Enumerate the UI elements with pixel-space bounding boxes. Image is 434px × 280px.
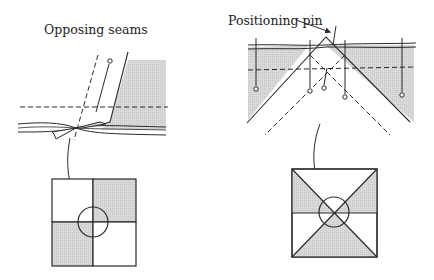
pin-far-right-head bbox=[400, 93, 404, 97]
quadrant-top-right bbox=[93, 179, 136, 222]
pin-inner-right-head bbox=[343, 95, 347, 99]
opposing-seams-label: Opposing seams bbox=[44, 22, 148, 37]
positioning-pin-label: Positioning pin bbox=[228, 13, 323, 28]
pin-head bbox=[108, 59, 112, 63]
pin-inner-left-head bbox=[308, 89, 312, 93]
seam-allowance-flap-left bbox=[52, 128, 76, 139]
quadrant-bottom-left bbox=[52, 222, 93, 266]
left-seam-illustration bbox=[18, 52, 168, 140]
pin-far-left-head bbox=[254, 87, 258, 91]
quadrant-bottom-right bbox=[93, 222, 136, 266]
seam-allowance-flap-right bbox=[76, 122, 106, 128]
pin-shaft bbox=[96, 64, 109, 112]
positioning-pin bbox=[333, 26, 336, 45]
shaded-fabric-strip bbox=[248, 45, 309, 120]
shaded-fabric-piece bbox=[100, 60, 166, 130]
pin-center-head bbox=[322, 86, 326, 90]
hourglass-block bbox=[292, 169, 377, 257]
four-patch-block bbox=[52, 179, 136, 266]
pin-center bbox=[324, 68, 327, 85]
quadrant-top-left bbox=[52, 179, 93, 222]
right-seam-illustration bbox=[247, 26, 416, 135]
sewing-diagram bbox=[0, 0, 434, 280]
